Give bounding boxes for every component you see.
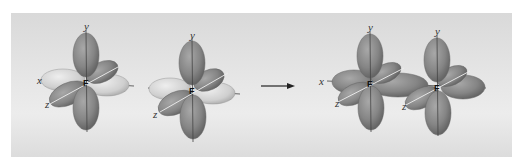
orbital-diagram: x y z F y z F <box>0 0 525 168</box>
y-axis-label: y <box>83 20 89 32</box>
atom-1-orbitals: x y z F <box>36 20 134 132</box>
z-axis-label: z <box>152 108 158 120</box>
z-axis-label-2: z <box>401 100 407 112</box>
atom-label-2: F <box>434 83 440 93</box>
atom-label: F <box>189 86 195 96</box>
y-axis-label-2: y <box>434 25 440 37</box>
arrow-head-icon <box>287 83 295 89</box>
atom-label: F <box>83 78 89 88</box>
reaction-arrow <box>261 83 295 89</box>
atom-label-1: F <box>367 79 373 89</box>
x-axis-label: x <box>36 74 42 86</box>
product-orbitals: x y z y z F F <box>318 21 486 136</box>
atom-2-orbitals: y z F <box>148 29 240 142</box>
x-axis-label: x <box>318 75 324 87</box>
z-axis-label-1: z <box>334 97 340 109</box>
py-lobe-bottom <box>73 86 99 130</box>
y-axis-label-1: y <box>367 21 373 33</box>
y-axis-label: y <box>189 29 195 41</box>
z-axis-label: z <box>44 98 50 110</box>
